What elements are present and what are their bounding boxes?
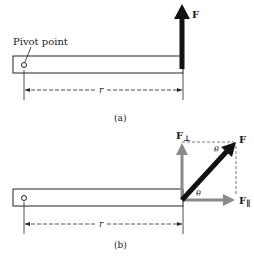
dim-arrow-left-icon — [25, 88, 30, 92]
pivot-icon — [22, 196, 27, 201]
perp-force-label: F⊥ — [176, 130, 191, 143]
dim-arrow-left-icon — [25, 222, 30, 226]
dim-arrow-right-icon — [177, 88, 182, 92]
force-label: F — [192, 9, 199, 20]
beam — [13, 56, 183, 73]
par-arrow-head-icon — [223, 194, 235, 206]
torque-diagram: Pivot point F r (a) F⊥ F∥ F θ — [0, 0, 254, 256]
force-arrow-head-icon — [174, 4, 190, 19]
panel-a: Pivot point F r (a) — [13, 4, 199, 123]
caption-b: (b) — [114, 240, 127, 250]
pivot-point-label: Pivot point — [13, 36, 68, 47]
distance-label: r — [99, 219, 104, 229]
dim-arrow-right-icon — [177, 222, 182, 226]
force-arrow-shaft — [180, 16, 185, 69]
caption-a: (a) — [114, 113, 126, 123]
perp-arrow-head-icon — [176, 143, 188, 155]
angle-label-upper: θ — [214, 145, 219, 154]
distance-label: r — [99, 85, 104, 95]
force-arrow-shaft — [182, 150, 228, 200]
angle-label-lower: θ — [196, 189, 201, 198]
pivot-icon — [22, 63, 27, 68]
beam — [13, 189, 183, 206]
perp-arrow-shaft — [181, 152, 184, 200]
panel-b: F⊥ F∥ F θ θ r (b) — [13, 130, 250, 250]
force-label: F — [239, 134, 246, 145]
par-arrow-shaft — [182, 199, 226, 202]
par-force-label: F∥ — [239, 195, 250, 208]
